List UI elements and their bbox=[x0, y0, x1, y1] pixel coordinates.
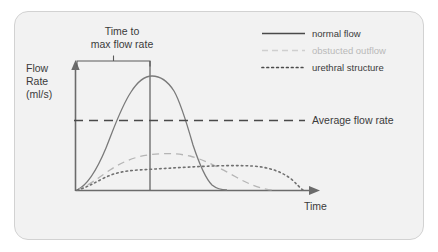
y-axis-label-line-3: (ml/s) bbox=[26, 88, 52, 100]
legend-item-obstructed-outflow: obstucted outflow bbox=[262, 45, 386, 56]
chart-curves bbox=[77, 76, 303, 190]
x-axis-label: Time bbox=[304, 200, 327, 212]
average-flow-rate-line-group: Average flow rate bbox=[74, 114, 394, 126]
average-flow-rate-label: Average flow rate bbox=[312, 114, 394, 126]
curve-normal-flow bbox=[77, 76, 227, 190]
time-to-max-flow-annotation: Time to max flow rate bbox=[77, 25, 153, 190]
annotation-bracket bbox=[77, 61, 150, 67]
x-axis-arrow-icon bbox=[309, 186, 320, 195]
curve-obstructed-outflow bbox=[77, 154, 272, 190]
chart-axes bbox=[71, 60, 320, 195]
legend-label-urethral-structure: urethral structure bbox=[312, 62, 384, 73]
legend-label-normal-flow: normal flow bbox=[312, 28, 361, 39]
chart-legend: normal flow obstucted outflow urethral s… bbox=[262, 28, 386, 73]
legend-label-obstructed-outflow: obstucted outflow bbox=[312, 45, 386, 56]
y-axis-label: Flow Rate (ml/s) bbox=[26, 62, 52, 100]
y-axis-label-line-1: Flow bbox=[26, 62, 49, 74]
annotation-label-line-1: Time to bbox=[105, 25, 140, 37]
legend-item-normal-flow: normal flow bbox=[262, 28, 361, 39]
uroflowmetry-chart: Flow Rate (ml/s) Time Time to max flow r… bbox=[0, 0, 438, 252]
annotation-label-line-2: max flow rate bbox=[91, 38, 154, 50]
legend-item-urethral-structure: urethral structure bbox=[262, 62, 384, 73]
y-axis-label-line-2: Rate bbox=[26, 75, 48, 87]
